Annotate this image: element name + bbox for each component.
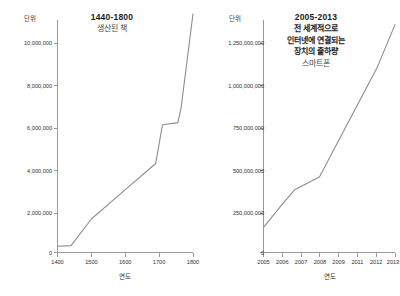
ytick-label-devices-0: 0 [208, 250, 264, 256]
ytick-label-books-0: 0 [6, 250, 52, 256]
ytick-label-devices-5: 1,250,000,000 [208, 40, 264, 46]
xtick-label-devices-4: 2009 [332, 259, 344, 265]
xtick-label-devices-7: 2013 [387, 259, 399, 265]
x-axis-label-devices: 연도 [324, 271, 336, 281]
ytick-label-books-5: 10,000,000 [6, 40, 52, 46]
xtick-label-devices-6: 2012 [370, 259, 382, 265]
ytick-label-books-3: 6,000,000 [6, 125, 52, 131]
xtick-label-devices-5: 2011 [351, 259, 363, 265]
chart-panel-devices: 2005-2013 전 세계적으로 인터넷에 연결되는 장치의 출하량 스마트폰… [200, 0, 400, 296]
x-ticks-devices [264, 253, 396, 257]
y-ticks-books [54, 43, 58, 253]
xtick-label-devices-3: 2008 [314, 259, 326, 265]
xtick-label-books-1: 1500 [85, 259, 97, 265]
xtick-label-books-3: 1700 [153, 259, 165, 265]
data-line-books [58, 14, 194, 247]
xtick-label-books-0: 1400 [51, 259, 63, 265]
x-axis-label-books: 연도 [119, 271, 131, 281]
ytick-label-devices-3: 750,000,000 [208, 125, 264, 131]
x-ticks-books [58, 253, 194, 257]
xtick-label-books-2: 1600 [119, 259, 131, 265]
xtick-label-devices-1: 2006 [276, 259, 288, 265]
ytick-label-devices-1: 250,000,000 [208, 210, 264, 216]
ytick-label-devices-4: 1,000,000,000 [208, 83, 264, 89]
ytick-label-books-2: 4,000,000 [6, 168, 52, 174]
charts-row: 1440-1800 생산된 책 단위 [0, 0, 400, 296]
xtick-label-devices-2: 2007 [295, 259, 307, 265]
ytick-label-devices-2: 500,000,000 [208, 168, 264, 174]
data-line-devices [264, 25, 396, 228]
ytick-label-books-1: 2,000,000 [6, 210, 52, 216]
chart-panel-books: 1440-1800 생산된 책 단위 [0, 0, 200, 296]
y-ticks-devices [260, 43, 264, 253]
ytick-label-books-4: 8,000,000 [6, 83, 52, 89]
xtick-label-books-4: 1800 [187, 259, 199, 265]
xtick-label-devices-0: 2005 [257, 259, 269, 265]
